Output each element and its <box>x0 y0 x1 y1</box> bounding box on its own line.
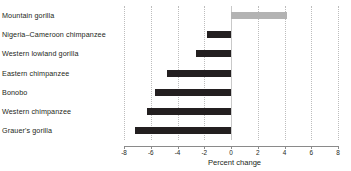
gridline-neg8 <box>124 6 125 140</box>
bar <box>135 127 231 134</box>
x-tick-label: -6 <box>148 149 154 157</box>
gridline-8 <box>338 6 339 140</box>
x-tick-label: 0 <box>229 149 233 157</box>
gridline-0 <box>231 6 232 140</box>
x-tick-label: 8 <box>336 149 340 157</box>
category-label: Nigeria–Cameroon chimpanzee <box>2 30 114 39</box>
category-label: Western chimpanzee <box>2 107 114 116</box>
bar <box>167 70 231 77</box>
x-tick-label: 6 <box>309 149 313 157</box>
gridline-4 <box>285 6 286 140</box>
category-label: Western lowland gorilla <box>2 49 114 58</box>
x-axis-title: Percent change <box>118 158 351 168</box>
gridline-2 <box>258 6 259 140</box>
plot-area <box>118 6 351 140</box>
x-axis: -8-6-4-202468 <box>118 146 351 156</box>
bar <box>147 108 231 115</box>
category-label: Mountain gorilla <box>2 11 114 20</box>
category-label: Eastern chimpanzee <box>2 69 114 78</box>
bar <box>155 89 231 96</box>
bar <box>231 12 287 19</box>
x-tick-label: 4 <box>283 149 287 157</box>
bar <box>207 31 231 38</box>
x-tick-label: -8 <box>121 149 127 157</box>
category-label: Grauer's gorilla <box>2 126 114 135</box>
gridline-6 <box>311 6 312 140</box>
x-tick-label: -4 <box>175 149 181 157</box>
category-axis: Mountain gorillaNigeria–Cameroon chimpan… <box>0 0 118 140</box>
x-tick-label: -2 <box>201 149 207 157</box>
category-label: Bonobo <box>2 88 114 97</box>
x-tick-label: 2 <box>256 149 260 157</box>
gridline-neg6 <box>151 6 152 140</box>
percent-change-bar-chart: Mountain gorillaNigeria–Cameroon chimpan… <box>0 0 351 171</box>
bar <box>196 50 231 57</box>
